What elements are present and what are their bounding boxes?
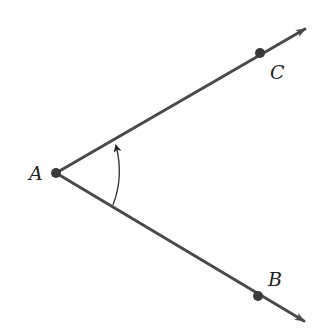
angle-diagram: A C B xyxy=(0,0,319,332)
point-b xyxy=(253,291,263,301)
label-a: A xyxy=(27,162,43,184)
ray-ac xyxy=(56,29,305,173)
label-b: B xyxy=(267,268,282,290)
vertex-point-a xyxy=(51,168,61,178)
angle-arc-arrow-icon xyxy=(113,146,119,205)
label-c: C xyxy=(270,61,285,83)
ray-ab xyxy=(56,173,304,321)
point-c xyxy=(255,48,265,58)
